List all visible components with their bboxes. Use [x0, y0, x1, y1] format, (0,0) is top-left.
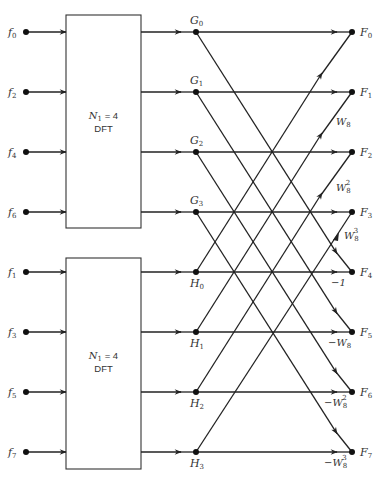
twiddle-labels: W8 W82 W83 −1 −W8 −W82 −W83 [324, 116, 359, 470]
twiddle-w8-2: W82 [336, 179, 351, 195]
label-g3: G3 [190, 194, 203, 208]
input-label-f3: f3 [7, 326, 17, 340]
block-output-wires [141, 32, 196, 452]
twiddle-minus-1: −1 [331, 277, 346, 288]
label-h0: H0 [189, 277, 204, 291]
horizontal-butterfly-wires [196, 32, 352, 452]
label-g1: G1 [190, 74, 203, 88]
label-f0-out: F0 [359, 26, 372, 40]
label-f7-out: F7 [359, 446, 372, 460]
diagonal-butterfly-wires [196, 32, 352, 452]
input-labels: f0 f2 f4 f6 f1 f3 f5 f7 [7, 26, 17, 460]
label-h2: H2 [189, 397, 204, 411]
label-f4-out: F4 [359, 266, 373, 280]
dft-block-even-label: DFT [94, 123, 113, 134]
intermediate-nodes [193, 29, 199, 455]
input-nodes [23, 29, 29, 455]
input-label-f6: f6 [7, 206, 17, 220]
input-label-f4: f4 [7, 146, 17, 160]
label-f6-out: F6 [359, 386, 373, 400]
output-labels: F0 F1 F2 F3 F4 F5 F6 F7 [359, 26, 373, 460]
intermediate-labels: G0 G1 G2 G3 H0 H1 H2 H3 [189, 14, 204, 471]
fft-flow-diagram: N1 = 4 DFT N1 = 4 DFT f0 f2 f4 f6 f1 [0, 0, 383, 480]
label-f1-out: F1 [359, 86, 372, 100]
label-f5-out: F5 [359, 326, 372, 340]
label-g2: G2 [190, 134, 203, 148]
dft-block-odd: N1 = 4 DFT [66, 258, 141, 469]
arrowhead-icon [333, 232, 339, 241]
input-label-f0: f0 [7, 26, 17, 40]
input-label-f7: f7 [7, 446, 17, 460]
twiddle-w8-3: W83 [344, 227, 359, 243]
twiddle-minus-w8-3: −W83 [324, 454, 347, 470]
label-h3: H3 [189, 457, 204, 471]
input-wires [26, 32, 66, 452]
twiddle-minus-w8: −W8 [328, 337, 351, 350]
dft-block-even: N1 = 4 DFT [66, 15, 141, 228]
label-f3-out: F3 [359, 206, 372, 220]
input-label-f1: f1 [7, 266, 17, 280]
input-label-f5: f5 [7, 386, 17, 400]
input-label-f2: f2 [7, 86, 17, 100]
label-h1: H1 [189, 337, 204, 351]
label-f2-out: F2 [359, 146, 372, 160]
twiddle-w8: W8 [336, 116, 351, 129]
label-g0: G0 [190, 14, 203, 28]
twiddle-minus-w8-2: −W82 [324, 394, 347, 410]
dft-block-odd-label: DFT [94, 363, 113, 374]
